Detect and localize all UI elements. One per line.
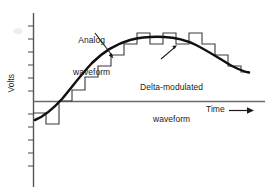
x-axis-label: Time — [206, 104, 225, 115]
delta-modulated-label-line1: Delta-modulated — [140, 82, 203, 93]
delta-modulated-label-line2: waveform — [140, 114, 203, 125]
time-arrow-icon — [229, 107, 254, 113]
analog-waveform-label-line2: waveform — [73, 67, 110, 78]
delta-modulated-leader — [161, 45, 177, 59]
delta-modulated-waveform-label: Delta-modulated waveform — [140, 61, 203, 145]
y-axis-ticks — [28, 26, 33, 166]
paper-artifact — [14, 28, 23, 34]
delta-modulation-figure: Analog waveform Delta-modulated waveform… — [0, 0, 272, 194]
y-axis-label: Volts — [6, 63, 17, 103]
waveform-plot — [0, 0, 272, 194]
analog-waveform-label: Analog waveform — [73, 14, 110, 98]
analog-waveform-label-line1: Analog — [73, 35, 110, 46]
